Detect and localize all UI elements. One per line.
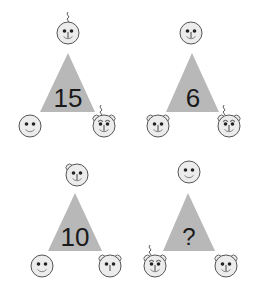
face-top: [57, 12, 79, 44]
puzzle-4: ?: [144, 161, 237, 277]
face-bottom-left: [19, 115, 41, 137]
puzzle-1: 15: [19, 12, 115, 137]
triangle-number: 15: [54, 83, 83, 113]
face-bottom-right: [93, 105, 115, 137]
triangle-number: 10: [61, 222, 90, 252]
face-top: [178, 161, 200, 183]
face-top: [180, 22, 202, 44]
triangle-number: 6: [186, 83, 200, 113]
triangle-number: ?: [182, 223, 195, 250]
face-bottom-left: [31, 255, 53, 277]
puzzle-diagram: 15 6 10: [0, 0, 262, 285]
face-bottom-right: [218, 105, 240, 137]
puzzle-3: 10: [31, 164, 121, 277]
face-bottom-right: [215, 255, 237, 277]
face-bottom-right: [99, 255, 121, 277]
face-bottom-left: [147, 115, 169, 137]
puzzle-2: 6: [147, 22, 240, 137]
face-top: [66, 164, 88, 186]
face-bottom-left: [144, 245, 166, 277]
